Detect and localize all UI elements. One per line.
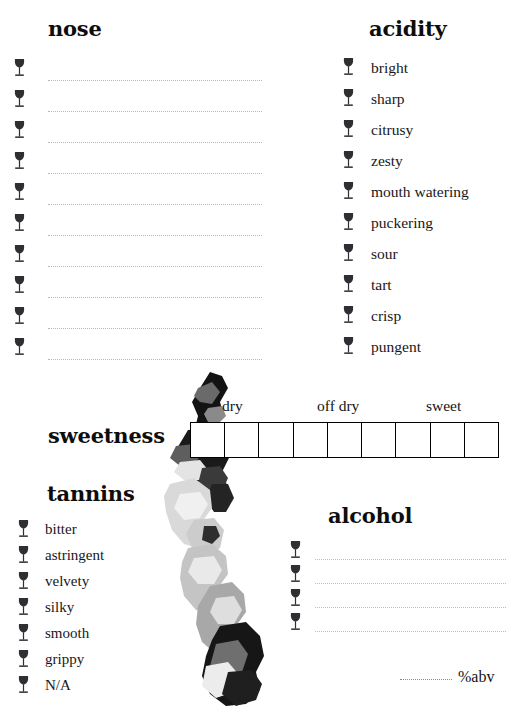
wine-glass-icon[interactable]	[341, 336, 356, 357]
nose-write-line[interactable]	[48, 359, 262, 360]
acidity-option-pungent[interactable]: pungent	[341, 331, 521, 362]
sweetness-scale-labels: dry off dry sweet	[190, 398, 499, 420]
wine-glass-icon[interactable]	[341, 243, 356, 264]
alcohol-line-row[interactable]	[288, 562, 506, 586]
wine-glass-icon[interactable]	[12, 182, 27, 203]
wine-glass-icon[interactable]	[12, 213, 27, 234]
acidity-option-crisp[interactable]: crisp	[341, 300, 521, 331]
acidity-option-sharp[interactable]: sharp	[341, 83, 521, 114]
nose-write-line[interactable]	[48, 204, 262, 205]
tannins-heading: tannins	[47, 481, 135, 506]
tannins-option-label: velvety	[45, 574, 89, 589]
nose-line-row[interactable]	[12, 53, 262, 84]
wine-glass-icon[interactable]	[12, 58, 27, 79]
alcohol-line-row[interactable]	[288, 610, 506, 634]
acidity-option-bright[interactable]: bright	[341, 52, 521, 83]
wine-glass-icon[interactable]	[12, 120, 27, 141]
sweetness-heading: sweetness	[48, 423, 165, 448]
sweetness-cell[interactable]	[191, 423, 225, 457]
sweetness-cell[interactable]	[294, 423, 328, 457]
sweetness-cell[interactable]	[362, 423, 396, 457]
wine-glass-icon[interactable]	[341, 88, 356, 109]
tannins-option-label: N/A	[45, 678, 71, 693]
nose-line-row[interactable]	[12, 115, 262, 146]
tannins-option-bitter[interactable]: bitter	[16, 516, 176, 542]
tannins-option-silky[interactable]: silky	[16, 594, 176, 620]
nose-line-row[interactable]	[12, 239, 262, 270]
wine-glass-icon[interactable]	[16, 571, 31, 592]
tannins-option-smooth[interactable]: smooth	[16, 620, 176, 646]
acidity-option-label: puckering	[371, 215, 433, 231]
nose-line-row[interactable]	[12, 332, 262, 363]
alcohol-write-line[interactable]	[315, 607, 506, 608]
sweetness-label-dry: dry	[222, 398, 243, 414]
wine-glass-icon[interactable]	[341, 212, 356, 233]
wine-glass-icon[interactable]	[341, 274, 356, 295]
alcohol-line-row[interactable]	[288, 538, 506, 562]
nose-write-line[interactable]	[48, 173, 262, 174]
nose-line-row[interactable]	[12, 177, 262, 208]
wine-glass-icon[interactable]	[288, 564, 303, 585]
wine-glass-icon[interactable]	[16, 675, 31, 696]
wine-glass-icon[interactable]	[12, 337, 27, 358]
alcohol-line-row[interactable]	[288, 586, 506, 610]
wine-glass-icon[interactable]	[16, 597, 31, 618]
nose-line-row[interactable]	[12, 84, 262, 115]
wine-glass-icon[interactable]	[341, 181, 356, 202]
acidity-option-label: sour	[371, 246, 398, 262]
wine-glass-icon[interactable]	[288, 540, 303, 561]
sweetness-cell[interactable]	[465, 423, 498, 457]
wine-glass-icon[interactable]	[341, 150, 356, 171]
nose-write-line[interactable]	[48, 142, 262, 143]
wine-glass-icon[interactable]	[12, 244, 27, 265]
alcohol-write-line[interactable]	[315, 631, 506, 632]
wine-glass-icon[interactable]	[341, 119, 356, 140]
sweetness-cell[interactable]	[431, 423, 465, 457]
sweetness-cell[interactable]	[225, 423, 259, 457]
acidity-option-puckering[interactable]: puckering	[341, 207, 521, 238]
nose-write-line[interactable]	[48, 328, 262, 329]
wine-glass-icon[interactable]	[12, 151, 27, 172]
nose-write-line[interactable]	[48, 111, 262, 112]
abv-input[interactable]	[400, 679, 452, 680]
acidity-option-mouth-watering[interactable]: mouth watering	[341, 176, 521, 207]
wine-glass-icon[interactable]	[12, 275, 27, 296]
wine-glass-icon[interactable]	[341, 305, 356, 326]
sweetness-cell[interactable]	[259, 423, 293, 457]
tannins-option-grippy[interactable]: grippy	[16, 646, 176, 672]
tannins-option-velvety[interactable]: velvety	[16, 568, 176, 594]
nose-line-row[interactable]	[12, 208, 262, 239]
nose-line-row[interactable]	[12, 301, 262, 332]
alcohol-lines-list	[288, 538, 506, 634]
sweetness-cell[interactable]	[328, 423, 362, 457]
nose-write-line[interactable]	[48, 235, 262, 236]
nose-write-line[interactable]	[48, 297, 262, 298]
tannins-option-astringent[interactable]: astringent	[16, 542, 176, 568]
abv-label: %abv	[458, 669, 494, 685]
nose-write-line[interactable]	[48, 266, 262, 267]
acidity-option-label: crisp	[371, 308, 401, 324]
nose-line-row[interactable]	[12, 270, 262, 301]
wine-glass-icon[interactable]	[341, 57, 356, 78]
nose-write-line[interactable]	[48, 80, 262, 81]
wine-glass-icon[interactable]	[16, 623, 31, 644]
sweetness-scale[interactable]	[190, 422, 499, 458]
acidity-option-tart[interactable]: tart	[341, 269, 521, 300]
acidity-option-sour[interactable]: sour	[341, 238, 521, 269]
abv-field[interactable]: %abv	[400, 669, 494, 685]
alcohol-write-line[interactable]	[315, 583, 506, 584]
acidity-option-zesty[interactable]: zesty	[341, 145, 521, 176]
wine-glass-icon[interactable]	[16, 545, 31, 566]
tannins-option-na[interactable]: N/A	[16, 672, 176, 698]
wine-glass-icon[interactable]	[16, 519, 31, 540]
wine-glass-icon[interactable]	[16, 649, 31, 670]
nose-line-row[interactable]	[12, 146, 262, 177]
alcohol-write-line[interactable]	[315, 559, 506, 560]
wine-glass-icon[interactable]	[12, 89, 27, 110]
wine-glass-icon[interactable]	[12, 306, 27, 327]
wine-glass-icon[interactable]	[288, 588, 303, 609]
acidity-option-citrusy[interactable]: citrusy	[341, 114, 521, 145]
sweetness-cell[interactable]	[396, 423, 430, 457]
acidity-option-label: mouth watering	[371, 184, 469, 200]
wine-glass-icon[interactable]	[288, 612, 303, 633]
